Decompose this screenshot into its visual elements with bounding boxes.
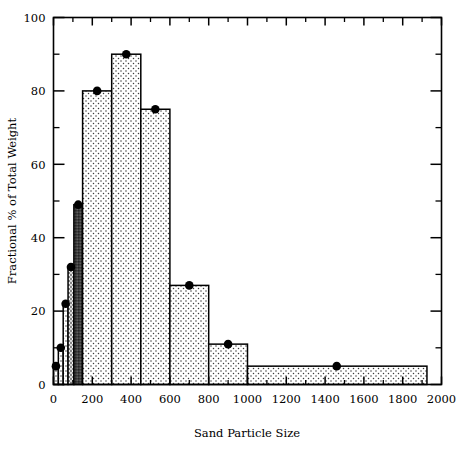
y-tick-label: 20: [31, 304, 46, 318]
x-tick-label: 1800: [388, 392, 417, 406]
x-tick-label: 1400: [310, 392, 339, 406]
data-point-marker-9: [224, 340, 233, 349]
x-axis-label: Sand Particle Size: [194, 426, 300, 440]
data-point-marker-8: [185, 281, 194, 290]
x-tick-label: 800: [198, 392, 220, 406]
y-tick-label: 60: [31, 158, 46, 172]
data-point-marker-4: [74, 200, 83, 209]
x-tick-label: 400: [120, 392, 142, 406]
x-tick-label: 600: [159, 392, 181, 406]
bar: [112, 54, 141, 384]
data-point-marker-6: [122, 50, 131, 59]
y-tick-label: 40: [31, 231, 46, 245]
y-tick-label: 0: [38, 378, 45, 392]
x-tick-label: 200: [81, 392, 103, 406]
bar: [74, 205, 83, 385]
y-tick-label: 80: [31, 84, 46, 98]
x-tick-label: 1600: [349, 392, 378, 406]
bar-rect-8: [170, 285, 209, 384]
bar-rect-7: [141, 109, 170, 384]
bar: [83, 91, 112, 385]
chart-figure: 0200400600800100012001400160018002000 02…: [0, 0, 461, 450]
data-point-marker-7: [151, 105, 160, 114]
x-tick-label: 0: [50, 392, 57, 406]
data-point-marker-5: [93, 87, 102, 96]
data-point-marker-10: [332, 362, 341, 371]
bar-rect-6: [112, 54, 141, 384]
y-axis-label: Fractional % of Total Weight: [5, 117, 19, 284]
bar: [141, 109, 170, 384]
bar-rect-9: [209, 344, 248, 384]
bar-rect-3: [68, 267, 74, 384]
bar-rect-4: [74, 205, 83, 385]
bar-rect-5: [83, 91, 112, 385]
x-tick-label: 2000: [427, 392, 456, 406]
x-tick-label: 1000: [233, 392, 262, 406]
bar: [68, 267, 74, 384]
bar: [209, 344, 248, 384]
x-tick-label: 1200: [272, 392, 301, 406]
y-tick-label: 100: [24, 11, 46, 25]
bar: [170, 285, 209, 384]
data-point-marker-3: [67, 263, 76, 272]
data-point-marker-2: [61, 299, 70, 308]
sand-particle-size-histogram: 0200400600800100012001400160018002000 02…: [0, 0, 461, 450]
